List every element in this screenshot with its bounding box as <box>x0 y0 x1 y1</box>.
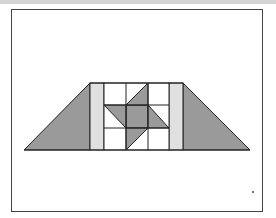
right-strip <box>169 83 183 150</box>
quilt-diagram <box>0 0 276 218</box>
right-triangle <box>183 83 250 150</box>
left-triangle <box>24 83 90 150</box>
marker-dot <box>252 191 254 193</box>
left-strip <box>90 83 104 150</box>
